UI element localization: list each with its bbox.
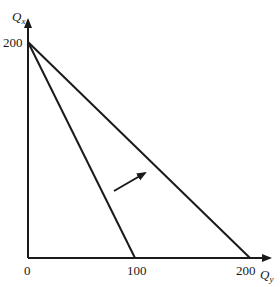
x-axis-label-sub: y	[269, 274, 273, 284]
diagram-canvas	[0, 0, 280, 287]
x-axis-label-main: Q	[260, 267, 269, 282]
tick-origin: 0	[24, 264, 31, 277]
tick-x-200: 200	[236, 264, 256, 277]
y-axis-label-main: Q	[12, 9, 21, 24]
x-axis-label: Qy	[260, 268, 273, 284]
y-axis-label: Qx	[12, 10, 25, 26]
rotation-arrow	[114, 173, 145, 191]
new-budget-line	[28, 42, 250, 258]
y-axis-label-sub: x	[21, 16, 25, 26]
original-budget-line	[28, 42, 135, 258]
tick-y-200: 200	[3, 36, 23, 49]
tick-x-100: 100	[127, 264, 147, 277]
